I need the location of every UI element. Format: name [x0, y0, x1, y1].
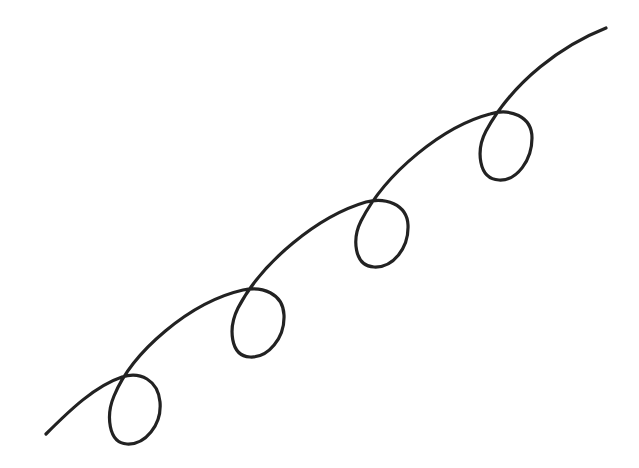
looped-line-path — [46, 28, 606, 444]
curly-line-drawing — [0, 0, 639, 468]
illustration-canvas — [0, 0, 639, 468]
